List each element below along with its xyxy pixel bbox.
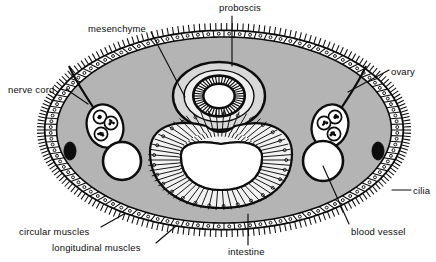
cilium: [100, 49, 103, 55]
ovum-granule: [323, 122, 325, 124]
cilium: [113, 210, 116, 217]
cilium: [314, 37, 316, 44]
nerve-cord-right: [372, 142, 384, 160]
cilium: [404, 123, 411, 124]
cilium: [41, 151, 48, 154]
cilium: [74, 66, 78, 72]
cilium: [369, 66, 373, 72]
cilium: [122, 40, 124, 47]
cilium: [319, 38, 321, 45]
cilium: [390, 168, 396, 172]
cilium: [363, 193, 367, 199]
cilium: [384, 79, 389, 84]
cilium: [304, 219, 306, 226]
cilium: [113, 43, 116, 50]
cilium: [167, 225, 168, 232]
longitudinal-muscles-leader: [156, 226, 176, 243]
cilium: [54, 85, 60, 90]
cilium: [52, 168, 58, 172]
cilium: [390, 88, 396, 92]
cilium: [162, 29, 163, 36]
cilium: [323, 40, 325, 47]
cilium: [172, 27, 173, 34]
cilium: [328, 42, 331, 49]
cilium: [259, 228, 260, 235]
cilium: [132, 217, 134, 224]
cilium: [50, 165, 56, 169]
cilium: [314, 217, 316, 224]
cilium: [43, 154, 50, 157]
cilium: [386, 82, 391, 87]
cilium: [359, 58, 363, 64]
cilium: [348, 202, 351, 208]
cilium: [269, 26, 270, 33]
cilium: [394, 94, 400, 98]
cilium: [92, 200, 96, 206]
ovum-granule: [102, 132, 104, 134]
cilium: [381, 179, 386, 184]
cilium: [399, 154, 406, 157]
cilium: [309, 218, 311, 225]
cilium: [39, 145, 46, 147]
cilium: [100, 204, 103, 210]
label-blood-vessel: blood vessel: [351, 226, 406, 237]
cilium: [386, 173, 391, 178]
cilium: [147, 221, 149, 228]
cilium: [194, 229, 195, 236]
cilium: [62, 179, 67, 184]
label-ovary: ovary: [391, 66, 415, 77]
label-longitudinal-muscles: longitudinal muscles: [52, 242, 141, 253]
cilium: [280, 225, 281, 232]
cilium: [109, 208, 112, 215]
cilium: [376, 184, 381, 189]
cilium: [178, 227, 179, 234]
cilium: [319, 215, 321, 222]
cilium: [392, 91, 398, 95]
cilium: [105, 206, 108, 213]
cilium: [44, 157, 50, 160]
blood-vessel-left: [103, 142, 141, 180]
cilium: [62, 76, 67, 81]
cilium: [43, 103, 50, 106]
cilium: [381, 76, 386, 81]
cilium: [264, 25, 265, 32]
cilium: [38, 120, 45, 121]
cilium: [38, 142, 45, 144]
cilium: [309, 35, 311, 42]
cilium: [81, 193, 85, 199]
cilium: [397, 157, 403, 160]
epidermis-cell-wall: [234, 223, 235, 230]
cilium: [328, 212, 331, 219]
cilium: [127, 38, 129, 45]
cilium: [142, 219, 144, 226]
cilium: [323, 213, 325, 220]
cilium: [369, 189, 373, 195]
cilium: [373, 186, 378, 192]
cilium: [46, 97, 52, 100]
cilium: [85, 58, 89, 64]
cilium: [167, 28, 168, 35]
intestine-lumen-cap: [181, 142, 262, 190]
cilium: [40, 148, 47, 150]
cilium: [59, 79, 64, 84]
cilium: [85, 196, 89, 202]
cilium: [400, 107, 407, 110]
cilium: [403, 139, 410, 140]
cilium: [402, 145, 409, 147]
cilium: [78, 191, 82, 197]
cilium: [264, 227, 265, 234]
label-circular-muscles: circular muscles: [19, 226, 90, 237]
label-nerve-cord: nerve cord: [8, 84, 54, 95]
cilium: [392, 165, 398, 169]
cilium: [384, 176, 389, 181]
cilium: [399, 103, 406, 106]
cilium: [359, 196, 363, 202]
cilium: [57, 173, 62, 178]
cilium: [199, 229, 200, 236]
cilium: [88, 56, 92, 62]
cilium: [396, 97, 402, 100]
cilium: [40, 110, 47, 112]
cilium: [274, 226, 275, 233]
cilium: [378, 181, 383, 186]
cilium: [253, 24, 254, 31]
